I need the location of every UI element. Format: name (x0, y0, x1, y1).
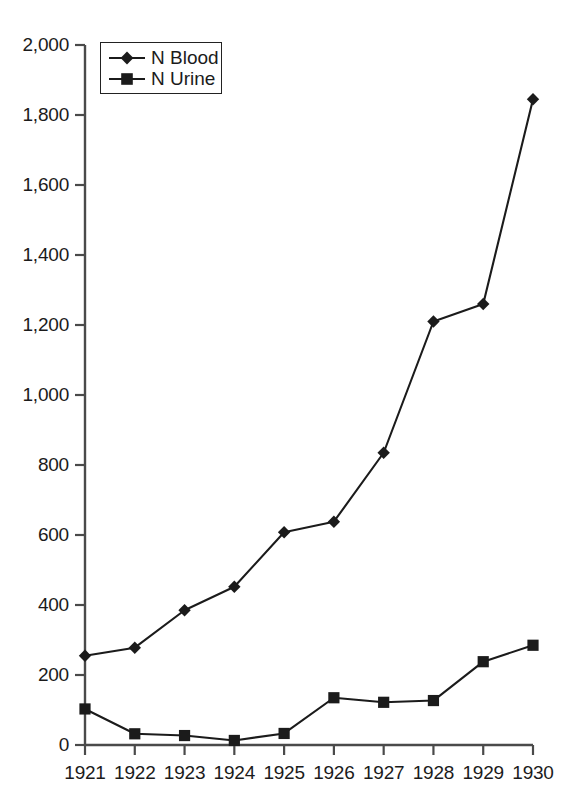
x-tick-label: 1925 (263, 762, 304, 784)
y-tick-label: 1,000 (0, 384, 69, 406)
data-point-marker (427, 315, 439, 327)
data-point-marker (478, 656, 489, 667)
x-tick-label: 1922 (114, 762, 155, 784)
x-axis-ticks (85, 745, 533, 755)
x-tick-label: 1930 (512, 762, 553, 784)
y-tick-label: 400 (0, 594, 69, 616)
legend-marker-square-icon (107, 69, 147, 89)
x-tick-label: 1923 (164, 762, 205, 784)
x-tick-label: 1927 (363, 762, 404, 784)
y-tick-label: 1,600 (0, 174, 69, 196)
y-tick-label: 1,400 (0, 244, 69, 266)
data-point-marker (378, 697, 389, 708)
x-tick-label: 1924 (214, 762, 255, 784)
series-n-blood (79, 93, 539, 662)
y-tick-label: 800 (0, 454, 69, 476)
series-line (85, 99, 533, 656)
y-tick-label: 200 (0, 664, 69, 686)
data-series-layer (79, 93, 539, 746)
data-point-marker (179, 730, 190, 741)
data-point-marker (428, 695, 439, 706)
data-point-marker (279, 728, 290, 739)
series-line (85, 645, 533, 740)
data-point-marker (527, 93, 539, 105)
y-tick-label: 1,200 (0, 314, 69, 336)
y-axis-ticks (75, 45, 85, 745)
x-tick-label: 1928 (413, 762, 454, 784)
x-tick-label: 1929 (462, 762, 503, 784)
data-point-marker (129, 728, 140, 739)
plot-area (0, 0, 580, 806)
data-point-marker (527, 640, 538, 651)
y-tick-label: 1,800 (0, 104, 69, 126)
y-tick-label: 600 (0, 524, 69, 546)
data-point-marker (79, 650, 91, 662)
y-tick-label: 0 (0, 734, 69, 756)
data-point-marker (328, 692, 339, 703)
legend: N Blood N Urine (100, 42, 222, 94)
x-tick-label: 1926 (313, 762, 354, 784)
line-chart: 02004006008001,0001,2001,4001,6001,8002,… (0, 0, 580, 806)
legend-item-1: N Urine (107, 68, 211, 89)
data-point-marker (229, 735, 240, 746)
legend-label-n-blood: N Blood (151, 47, 219, 69)
legend-item-0: N Blood (107, 47, 211, 68)
data-point-marker (477, 298, 489, 310)
legend-label-n-urine: N Urine (151, 68, 215, 90)
legend-marker-diamond-icon (107, 48, 147, 68)
series-n-urine (79, 640, 538, 746)
y-tick-label: 2,000 (0, 34, 69, 56)
data-point-marker (79, 703, 90, 714)
x-tick-label: 1921 (64, 762, 105, 784)
